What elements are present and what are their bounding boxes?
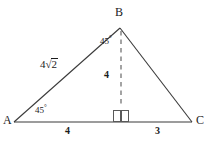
radical-expression: √2 [46,58,59,70]
angle-label-at-b: 45° [100,35,112,46]
altitude-length-label: 4 [104,70,109,80]
right-angle-marker-right [122,111,129,122]
angle-value-a: 45 [35,105,44,115]
angle-label-at-a: 45° [35,104,47,115]
base-right-length-label: 3 [155,126,160,136]
vertex-label-b: B [115,6,123,18]
degree-symbol-b: ° [109,34,112,42]
side-label-ab: 4√2 [40,58,58,70]
radicand: 2 [51,58,59,70]
vertex-label-a: A [3,114,12,126]
angle-value-b: 45 [100,36,109,46]
base-left-length-label: 4 [65,126,70,136]
right-angle-marker-left [114,111,121,122]
vertex-label-c: C [196,114,204,126]
geometry-diagram: A B C 45° 45° 4√2 4 4 3 [0,0,214,143]
side-bc-line [120,28,192,122]
degree-symbol-a: ° [44,103,47,111]
